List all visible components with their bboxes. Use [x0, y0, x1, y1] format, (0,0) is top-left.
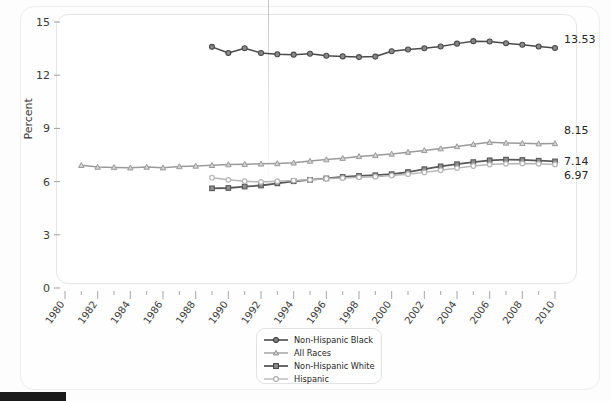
legend-swatch-all-races [263, 348, 289, 358]
legend-swatch-non-hispanic-white [263, 361, 289, 371]
y-axis-title: Percent [22, 126, 35, 140]
legend-label-non-hispanic-white: Non-Hispanic White [294, 361, 375, 371]
scan-edge-bar [0, 392, 66, 401]
chart-page: Percent 03691215198019821984198619881990… [0, 0, 611, 401]
line-chart [56, 14, 575, 282]
legend-swatch-hispanic [263, 374, 289, 384]
chart-legend[interactable]: Non-Hispanic Black All Races Non-Hispani… [256, 328, 382, 384]
legend-label-all-races: All Races [294, 348, 331, 358]
legend-label-hispanic: Hispanic [294, 374, 329, 384]
legend-item-all-races[interactable]: All Races [263, 347, 375, 359]
legend-item-hispanic[interactable]: Hispanic [263, 373, 375, 385]
legend-item-non-hispanic-black[interactable]: Non-Hispanic Black [263, 334, 375, 346]
legend-label-non-hispanic-black: Non-Hispanic Black [294, 335, 373, 345]
legend-swatch-non-hispanic-black [263, 335, 289, 345]
legend-item-non-hispanic-white[interactable]: Non-Hispanic White [263, 360, 375, 372]
plot-area [56, 14, 575, 282]
